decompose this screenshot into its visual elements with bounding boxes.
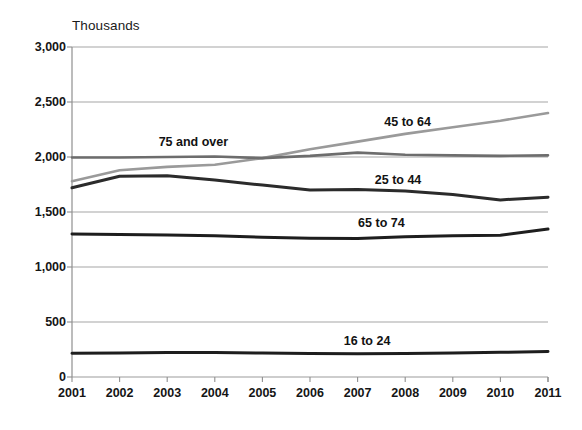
series-line-65-to-74 (72, 229, 548, 238)
plot-area (0, 0, 582, 430)
line-chart: Thousands 05001,0001,5002,0002,5003,000 … (0, 0, 582, 430)
series-line-45-to-64 (72, 113, 548, 181)
series-line-25-to-44 (72, 176, 548, 200)
series-line-16-to-24 (72, 351, 548, 353)
